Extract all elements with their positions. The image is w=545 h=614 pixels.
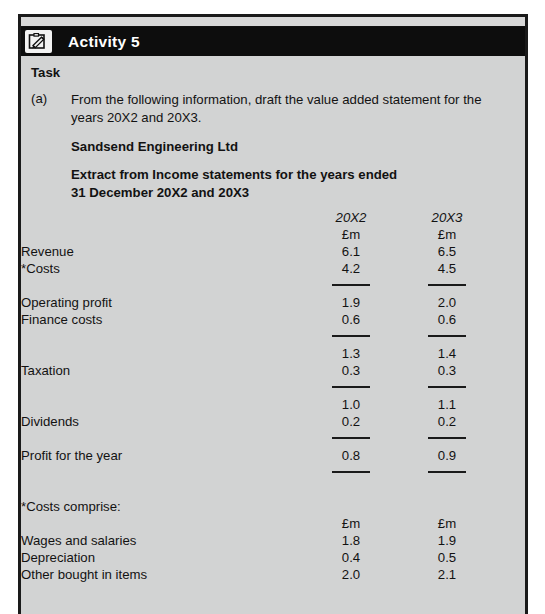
extract-title: Extract from Income statements for the y… — [71, 166, 525, 201]
row-value-1: 2.0 — [303, 566, 399, 583]
subtotal-rule — [332, 284, 370, 286]
row-label: Finance costs — [21, 311, 303, 328]
row-value-2: 0.6 — [399, 311, 495, 328]
total-rule-row — [21, 464, 525, 481]
row-value-1: 0.6 — [303, 311, 399, 328]
costs-unit-2: £m — [399, 515, 495, 532]
row-value-1: 0.3 — [303, 362, 399, 379]
income-statement-table: 20X2 20X3 £m £m Revenue 6.1 6.5 — [21, 209, 525, 583]
row-label: Wages and salaries — [21, 532, 303, 549]
subtotal-rule-row — [21, 328, 525, 345]
row-value-1: 1.3 — [303, 345, 399, 362]
task-heading: Task — [31, 65, 525, 80]
row-value-1: 1.0 — [303, 396, 399, 413]
row-value-2: 0.9 — [399, 447, 495, 464]
table-row: Profit for the year 0.8 0.9 — [21, 447, 525, 464]
total-rule — [332, 471, 370, 473]
activity-title: Activity 5 — [68, 33, 140, 51]
subtotal-rule — [332, 386, 370, 388]
row-value-2: 1.9 — [399, 532, 495, 549]
table-row: 1.3 1.4 — [21, 345, 525, 362]
row-label — [21, 396, 303, 413]
activity-frame: Activity 5 Task (a) From the following i… — [18, 14, 528, 614]
costs-unit-1: £m — [303, 515, 399, 532]
table-row: Finance costs 0.6 0.6 — [21, 311, 525, 328]
row-label — [21, 345, 303, 362]
total-rule — [428, 471, 466, 473]
row-value-1: 4.2 — [303, 260, 399, 277]
spacer-row — [21, 481, 525, 498]
extract-title-line1: Extract from Income statements for the y… — [71, 167, 397, 182]
subtotal-rule — [332, 335, 370, 337]
table-row: Operating profit 1.9 2.0 — [21, 294, 525, 311]
subtotal-rule — [428, 335, 466, 337]
subtotal-rule-row — [21, 277, 525, 294]
row-value-2: 4.5 — [399, 260, 495, 277]
row-label: Depreciation — [21, 549, 303, 566]
header-year-2: 20X3 — [399, 209, 495, 226]
row-value-2: 2.1 — [399, 566, 495, 583]
row-label: Revenue — [21, 243, 303, 260]
row-value-2: 0.5 — [399, 549, 495, 566]
costs-note-heading-row: *Costs comprise: — [21, 498, 525, 515]
row-label: *Costs — [21, 260, 303, 277]
activity-body: Task (a) From the following information,… — [21, 56, 525, 583]
subtotal-rule-row — [21, 430, 525, 447]
table-row: Wages and salaries 1.8 1.9 — [21, 532, 525, 549]
row-value-2: 1.4 — [399, 345, 495, 362]
row-value-1: 0.8 — [303, 447, 399, 464]
header-year-1: 20X2 — [303, 209, 399, 226]
row-label: Taxation — [21, 362, 303, 379]
clipboard-pencil-icon — [25, 30, 52, 53]
table-header-units: £m £m — [21, 226, 525, 243]
row-label: Profit for the year — [21, 447, 303, 464]
table-row: Revenue 6.1 6.5 — [21, 243, 525, 260]
table-row: Depreciation 0.4 0.5 — [21, 549, 525, 566]
row-value-1: 1.9 — [303, 294, 399, 311]
row-value-2: 0.2 — [399, 413, 495, 430]
row-value-2: 6.5 — [399, 243, 495, 260]
company-name: Sandsend Engineering Ltd — [71, 139, 525, 154]
row-label: Dividends — [21, 413, 303, 430]
task-instruction: From the following information, draft th… — [71, 91, 491, 126]
header-unit-2: £m — [399, 226, 495, 243]
subtotal-rule — [428, 284, 466, 286]
row-value-1: 6.1 — [303, 243, 399, 260]
table-row: Dividends 0.2 0.2 — [21, 413, 525, 430]
table-row: *Costs 4.2 4.5 — [21, 260, 525, 277]
subtotal-rule — [428, 386, 466, 388]
table-header-years: 20X2 20X3 — [21, 209, 525, 226]
table-row: 1.0 1.1 — [21, 396, 525, 413]
costs-note-heading: *Costs comprise: — [21, 498, 303, 515]
row-value-1: 1.8 — [303, 532, 399, 549]
header-unit-1: £m — [303, 226, 399, 243]
subtotal-rule — [428, 437, 466, 439]
row-label: Other bought in items — [21, 566, 303, 583]
activity-header-bar: Activity 5 — [21, 27, 525, 56]
subtotal-rule-row — [21, 379, 525, 396]
table-row: Taxation 0.3 0.3 — [21, 362, 525, 379]
extract-title-line2: 31 December 20X2 and 20X3 — [71, 185, 249, 200]
task-marker: (a) — [31, 91, 71, 126]
costs-note-units-row: £m £m — [21, 515, 525, 532]
row-value-2: 2.0 — [399, 294, 495, 311]
row-label: Operating profit — [21, 294, 303, 311]
row-value-1: 0.2 — [303, 413, 399, 430]
table-row: Other bought in items 2.0 2.1 — [21, 566, 525, 583]
row-value-2: 0.3 — [399, 362, 495, 379]
subtotal-rule — [332, 437, 370, 439]
row-value-2: 1.1 — [399, 396, 495, 413]
row-value-1: 0.4 — [303, 549, 399, 566]
task-instruction-row: (a) From the following information, draf… — [31, 91, 525, 126]
frame-top-strip — [21, 17, 525, 27]
